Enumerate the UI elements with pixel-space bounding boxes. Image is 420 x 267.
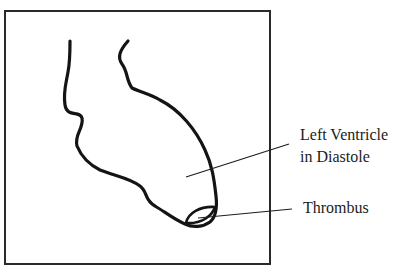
figure-frame [5, 11, 270, 264]
ventricle-leader-line [186, 144, 289, 177]
ventricle-outline [64, 41, 216, 226]
ventricle-label-line2: in Diastole [300, 147, 370, 167]
ventricle-label-line1: Left Ventricle [300, 125, 388, 145]
thrombus-label: Thrombus [303, 198, 369, 218]
